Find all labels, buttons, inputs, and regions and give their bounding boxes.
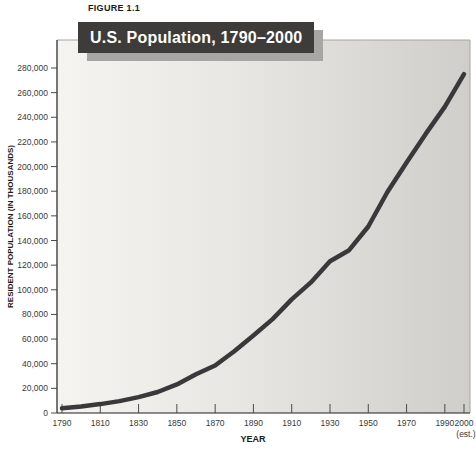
plot-background — [57, 40, 470, 413]
svg-text:280,000: 280,000 — [17, 63, 48, 73]
y-axis-title: RESIDENT POPULATION (IN THOUSANDS) — [6, 145, 15, 308]
svg-text:1790: 1790 — [53, 418, 72, 428]
svg-text:60,000: 60,000 — [22, 334, 48, 344]
page: { "figure": { "label": "FIGURE 1.1" }, "… — [0, 0, 476, 454]
svg-text:0: 0 — [43, 408, 48, 418]
svg-text:200,000: 200,000 — [17, 162, 48, 172]
svg-text:1970: 1970 — [397, 418, 416, 428]
svg-text:180,000: 180,000 — [17, 186, 48, 196]
population-line-chart: 020,00040,00060,00080,000100,000120,0001… — [0, 0, 476, 454]
svg-text:240,000: 240,000 — [17, 112, 48, 122]
svg-text:20,000: 20,000 — [22, 383, 48, 393]
svg-text:1990: 1990 — [435, 418, 454, 428]
svg-text:100,000: 100,000 — [17, 285, 48, 295]
svg-text:1850: 1850 — [167, 418, 186, 428]
svg-text:260,000: 260,000 — [17, 88, 48, 98]
svg-text:1810: 1810 — [91, 418, 110, 428]
svg-text:1950: 1950 — [359, 418, 378, 428]
svg-text:1890: 1890 — [244, 418, 263, 428]
svg-text:140,000: 140,000 — [17, 236, 48, 246]
svg-text:80,000: 80,000 — [22, 309, 48, 319]
x-axis-title: YEAR — [240, 434, 266, 444]
svg-text:1910: 1910 — [282, 418, 301, 428]
svg-text:(est.): (est.) — [456, 429, 476, 439]
svg-text:160,000: 160,000 — [17, 211, 48, 221]
svg-text:2000: 2000 — [455, 418, 474, 428]
svg-text:1870: 1870 — [206, 418, 225, 428]
svg-text:1930: 1930 — [321, 418, 340, 428]
y-axis-ticks: 020,00040,00060,00080,000100,000120,0001… — [17, 63, 57, 418]
svg-text:1830: 1830 — [129, 418, 148, 428]
chart-title-bar: U.S. Population, 1790–2000 — [78, 22, 314, 53]
svg-text:220,000: 220,000 — [17, 137, 48, 147]
svg-text:40,000: 40,000 — [22, 359, 48, 369]
svg-text:120,000: 120,000 — [17, 260, 48, 270]
